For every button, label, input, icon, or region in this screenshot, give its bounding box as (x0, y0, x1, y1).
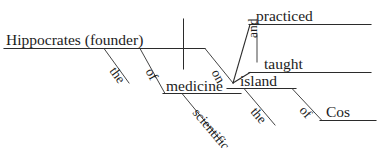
diagram-lines (0, 0, 379, 148)
verb-label-practiced: practiced (256, 8, 313, 24)
modifier-label-island: island (240, 73, 277, 89)
subject-label: Hippocrates (founder) (6, 32, 143, 48)
modifier-label-cos: Cos (326, 104, 350, 120)
sentence-diagram: Hippocrates (founder) the of medicine sc… (0, 0, 379, 148)
verb-label-taught: taught (264, 56, 303, 72)
